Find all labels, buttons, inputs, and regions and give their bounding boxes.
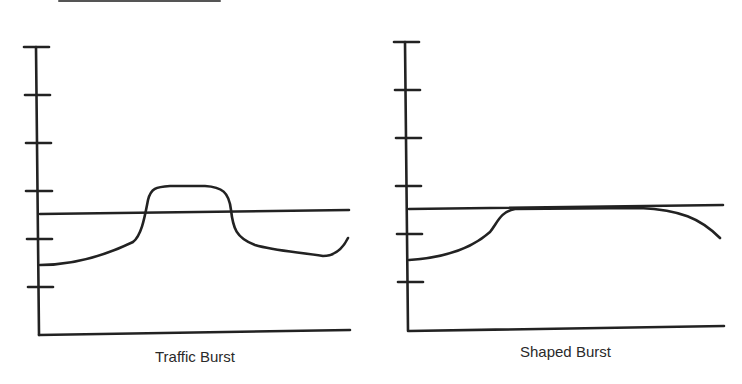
- shaped-burst-chart: [394, 42, 724, 331]
- traffic-burst-caption: Traffic Burst: [155, 348, 235, 365]
- diagram-canvas: [0, 0, 742, 384]
- shaped-curve: [409, 208, 720, 260]
- x-axis: [39, 330, 350, 335]
- y-axis-ticks: [394, 42, 423, 282]
- traffic-curve: [40, 186, 348, 265]
- x-axis: [409, 326, 724, 331]
- traffic-burst-chart: [24, 47, 350, 335]
- threshold-line: [40, 210, 349, 214]
- shaped-burst-caption: Shaped Burst: [520, 343, 611, 360]
